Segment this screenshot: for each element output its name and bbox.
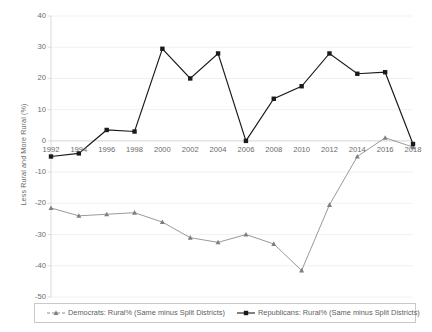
y-tick-label: -30	[20, 230, 46, 239]
y-tick-label: 10	[20, 105, 46, 114]
x-tick-label: 2006	[231, 145, 261, 154]
x-tick-label: 2010	[287, 145, 317, 154]
y-tick-label: -10	[20, 167, 46, 176]
y-tick-label: 0	[20, 136, 46, 145]
x-tick-label: 1994	[64, 145, 94, 154]
chart-legend: Democrats: Rural% (Same minus Split Dist…	[34, 303, 416, 323]
chart-plot-area	[0, 0, 432, 332]
y-tick-label: -40	[20, 261, 46, 270]
x-tick-label: 1998	[120, 145, 150, 154]
x-tick-label: 1992	[36, 145, 66, 154]
legend-marker-republicans-icon	[237, 309, 255, 317]
x-tick-label: 2016	[370, 145, 400, 154]
x-tick-label: 2002	[175, 145, 205, 154]
x-tick-label: 2014	[342, 145, 372, 154]
legend-item-democrats: Democrats: Rural% (Same minus Split Dist…	[47, 308, 225, 317]
legend-label-republicans: Republicans: Rural% (Same minus Split Di…	[258, 308, 420, 317]
y-tick-label: -50	[20, 292, 46, 301]
legend-marker-democrats-icon	[47, 309, 65, 317]
y-tick-label: -20	[20, 198, 46, 207]
x-tick-label: 2000	[147, 145, 177, 154]
x-tick-label: 2004	[203, 145, 233, 154]
legend-item-republicans: Republicans: Rural% (Same minus Split Di…	[237, 308, 420, 317]
x-tick-label: 2018	[398, 145, 428, 154]
y-tick-label: 30	[20, 42, 46, 51]
x-tick-label: 2008	[259, 145, 289, 154]
x-tick-label: 2012	[314, 145, 344, 154]
y-tick-label: 20	[20, 73, 46, 82]
chart-container: Less Rural and More Rural (%) 403020100-…	[0, 0, 432, 332]
x-tick-label: 1996	[92, 145, 122, 154]
legend-label-democrats: Democrats: Rural% (Same minus Split Dist…	[68, 308, 225, 317]
y-tick-label: 40	[20, 11, 46, 20]
